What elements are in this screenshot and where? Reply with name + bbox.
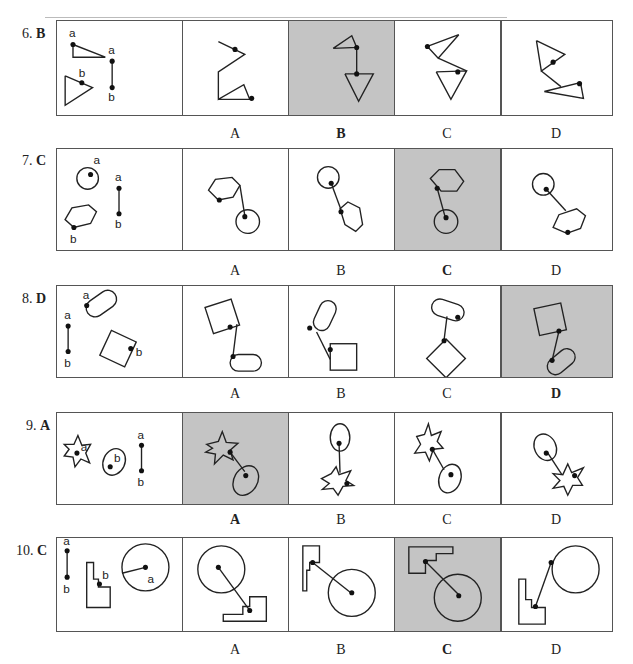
svg-text:a: a — [83, 288, 90, 301]
prompt-box: a b ab — [56, 148, 183, 251]
svg-text:b: b — [114, 451, 121, 464]
option-label: A — [182, 386, 288, 402]
svg-text:a: a — [63, 538, 70, 547]
option-d[interactable] — [501, 285, 613, 378]
svg-text:b: b — [102, 568, 109, 581]
svg-text:b: b — [108, 90, 115, 103]
option-a[interactable] — [182, 20, 289, 116]
prompt-box: a b ab — [56, 20, 183, 116]
question-number: 6. B — [22, 26, 45, 42]
svg-text:b: b — [63, 582, 70, 595]
option-label: C — [394, 386, 500, 402]
option-label: C — [394, 512, 500, 528]
svg-text:b: b — [138, 475, 145, 488]
option-b[interactable] — [288, 285, 395, 378]
option-label: A — [182, 512, 288, 528]
svg-text:b: b — [115, 217, 122, 230]
option-label: A — [182, 263, 288, 279]
option-b[interactable] — [288, 20, 395, 116]
option-c[interactable] — [394, 20, 501, 116]
option-label: D — [503, 263, 609, 279]
option-d[interactable] — [501, 20, 613, 116]
option-label: B — [288, 642, 394, 658]
option-d[interactable] — [501, 148, 613, 251]
option-label: B — [288, 512, 394, 528]
svg-text:a: a — [115, 170, 122, 183]
svg-text:b: b — [136, 345, 143, 358]
option-label: C — [394, 126, 500, 142]
question-number: 8. D — [22, 291, 46, 307]
option-d[interactable] — [501, 537, 613, 632]
svg-text:a: a — [94, 153, 101, 166]
option-a[interactable] — [182, 285, 289, 378]
option-label: B — [288, 263, 394, 279]
option-label: A — [182, 642, 288, 658]
svg-text:a: a — [81, 440, 88, 453]
svg-text:b: b — [70, 232, 77, 245]
option-label: D — [503, 512, 609, 528]
svg-text:a: a — [64, 308, 71, 321]
option-c[interactable] — [394, 412, 501, 505]
option-label: B — [288, 126, 394, 142]
option-label: D — [503, 126, 609, 142]
option-a[interactable] — [182, 412, 289, 505]
option-label: D — [503, 642, 609, 658]
prompt-box: a b ab — [56, 285, 183, 378]
option-label: A — [182, 126, 288, 142]
option-c[interactable] — [394, 537, 501, 632]
option-c[interactable] — [394, 148, 501, 251]
option-b[interactable] — [288, 148, 395, 251]
option-label: C — [394, 642, 500, 658]
svg-text:a: a — [108, 43, 115, 56]
option-a[interactable] — [182, 148, 289, 251]
question-number: 10. C — [16, 543, 47, 559]
option-b[interactable] — [288, 537, 395, 632]
svg-text:b: b — [79, 66, 86, 79]
option-c[interactable] — [394, 285, 501, 378]
option-label: D — [503, 386, 609, 402]
option-a[interactable] — [182, 537, 289, 632]
option-b[interactable] — [288, 412, 395, 505]
svg-text:b: b — [64, 356, 71, 369]
option-label: B — [288, 386, 394, 402]
top-rule — [45, 17, 507, 18]
option-label: C — [394, 263, 500, 279]
prompt-box: a b ab — [56, 412, 183, 505]
question-number: 7. C — [22, 153, 46, 169]
svg-text:a: a — [147, 572, 154, 585]
option-d[interactable] — [501, 412, 613, 505]
prompt-box: ab b a — [56, 537, 183, 632]
svg-text:a: a — [69, 26, 76, 39]
svg-text:a: a — [138, 428, 145, 441]
question-number: 9. A — [26, 418, 50, 434]
